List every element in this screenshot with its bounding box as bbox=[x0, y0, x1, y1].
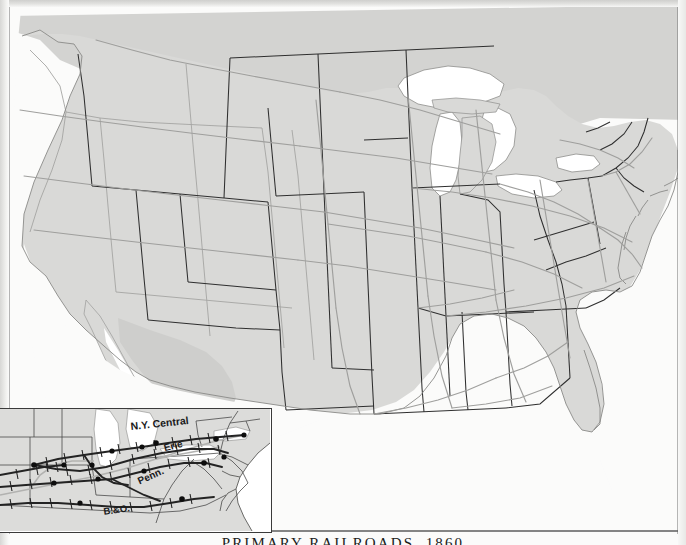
city-dot bbox=[61, 462, 66, 467]
city-dot bbox=[77, 500, 82, 505]
city-dot bbox=[139, 444, 144, 449]
city-dot bbox=[201, 460, 207, 466]
scan-edge-top bbox=[0, 0, 686, 7]
city-dot bbox=[179, 496, 185, 502]
figure-caption: PRIMARY RAILROADS, 1860 bbox=[0, 536, 686, 545]
city-dot bbox=[153, 440, 159, 446]
city-dot bbox=[221, 454, 226, 459]
city-dot bbox=[31, 462, 37, 468]
figure-page: N.Y. Central Erie Penn. B.&O. PRIMARY RA… bbox=[0, 0, 686, 545]
inset-map-trunk-lines: N.Y. Central Erie Penn. B.&O. bbox=[0, 408, 272, 533]
city-dot bbox=[95, 476, 100, 481]
city-dot bbox=[109, 448, 114, 453]
city-dot bbox=[89, 462, 94, 467]
lake-ontario bbox=[556, 154, 600, 172]
city-dot bbox=[51, 480, 56, 485]
city-dot bbox=[213, 436, 219, 442]
scan-edge-right bbox=[678, 0, 686, 545]
city-dot bbox=[241, 432, 246, 437]
